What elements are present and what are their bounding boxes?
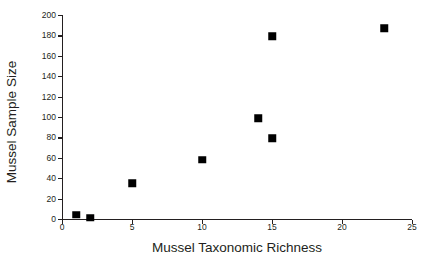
y-tick-mark: [58, 56, 62, 57]
y-tick-label: 140: [42, 71, 56, 81]
y-tick-label: 200: [42, 10, 56, 20]
y-tick-label: 0: [51, 214, 56, 224]
y-tick-mark: [58, 137, 62, 138]
plot-area: 020406080100120140160180200 0510152025: [62, 15, 412, 220]
y-tick-label: 40: [47, 173, 56, 183]
y-tick-label: 20: [47, 194, 56, 204]
y-tick-label: 160: [42, 51, 56, 61]
data-point: [128, 180, 136, 188]
scatter-chart: Mussel Sample Size 020406080100120140160…: [0, 0, 436, 264]
x-tick-label: 5: [130, 222, 135, 232]
data-point: [268, 135, 276, 143]
y-tick-mark: [58, 97, 62, 98]
data-point: [380, 25, 388, 33]
x-tick-label: 20: [337, 222, 346, 232]
y-tick-mark: [58, 178, 62, 179]
x-tick-label: 25: [407, 222, 416, 232]
x-axis-title: Mussel Taxonomic Richness: [62, 240, 412, 255]
y-tick-mark: [58, 158, 62, 159]
data-point: [268, 33, 276, 41]
y-tick-mark: [58, 76, 62, 77]
y-tick-mark: [58, 35, 62, 36]
y-tick-mark: [58, 15, 62, 16]
y-tick-label: 120: [42, 92, 56, 102]
y-tick-mark: [58, 117, 62, 118]
x-axis-line: [62, 219, 412, 220]
data-point: [198, 156, 206, 164]
y-tick-label: 180: [42, 30, 56, 40]
y-tick-label: 100: [42, 112, 56, 122]
y-axis-title: Mussel Sample Size: [0, 11, 22, 233]
data-point: [254, 114, 262, 122]
y-tick-mark: [58, 199, 62, 200]
x-tick-label: 0: [60, 222, 65, 232]
data-point: [72, 211, 80, 219]
y-axis-line: [62, 15, 63, 220]
y-tick-label: 60: [47, 153, 56, 163]
x-tick-label: 15: [267, 222, 276, 232]
y-tick-label: 80: [47, 132, 56, 142]
x-tick-label: 10: [197, 222, 206, 232]
data-point: [86, 214, 94, 222]
